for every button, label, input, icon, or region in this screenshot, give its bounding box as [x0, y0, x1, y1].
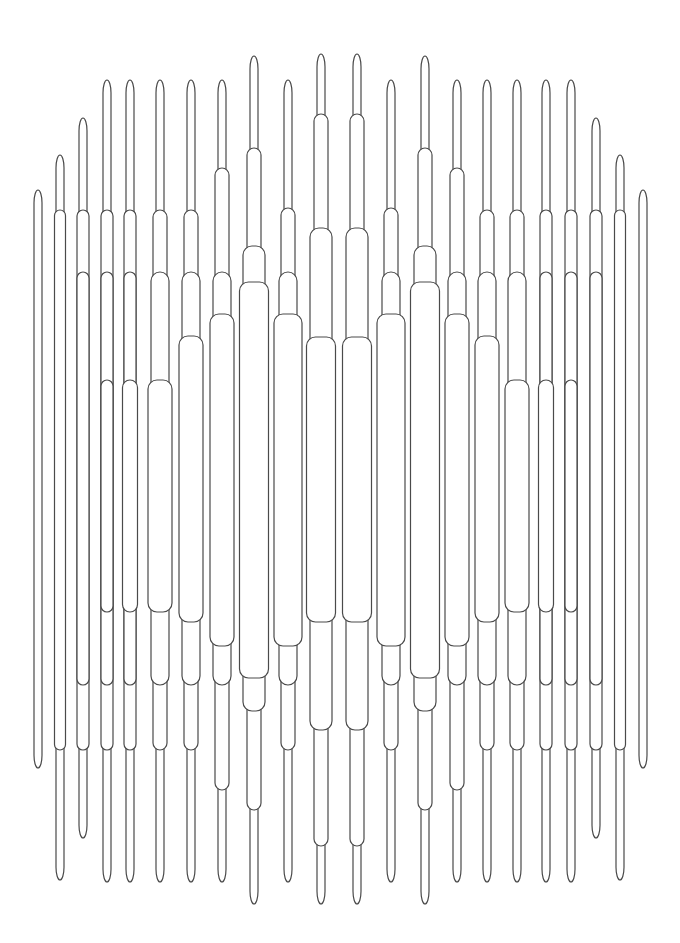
- capsule-segment: [77, 272, 89, 685]
- capsule-segment: [307, 337, 336, 622]
- column-10: [307, 54, 336, 904]
- column-6: [179, 80, 203, 882]
- capsule-columns: [34, 54, 647, 904]
- capsule-segment: [34, 190, 42, 768]
- capsule-segment: [590, 272, 602, 685]
- column-13: [411, 56, 440, 904]
- capsule-segment: [123, 380, 138, 612]
- capsule-segment: [505, 380, 529, 612]
- column-12: [377, 80, 405, 882]
- column-17: [539, 80, 554, 882]
- capsule-segment: [343, 337, 372, 622]
- column-0: [34, 190, 42, 768]
- capsule-segment: [101, 380, 113, 612]
- capsule-segment: [274, 314, 302, 646]
- column-14: [445, 80, 469, 882]
- capsule-segment: [411, 282, 440, 678]
- capsule-segment: [539, 380, 554, 612]
- capsule-segment: [148, 380, 172, 612]
- capsule-segment: [179, 336, 203, 622]
- column-5: [148, 80, 172, 882]
- column-18: [565, 80, 577, 882]
- column-19: [590, 118, 602, 838]
- column-2: [77, 118, 89, 838]
- column-3: [101, 80, 113, 882]
- line-art-canvas: [0, 0, 680, 943]
- capsule-segment: [55, 210, 66, 750]
- column-16: [505, 80, 529, 882]
- capsule-segment: [210, 314, 234, 646]
- capsule-segment: [240, 282, 269, 678]
- capsule-segment: [475, 336, 499, 622]
- capsule-segment: [615, 210, 626, 750]
- capsule-segment: [639, 190, 647, 768]
- column-21: [639, 190, 647, 768]
- column-4: [123, 80, 138, 882]
- column-20: [615, 155, 626, 880]
- capsule-segment: [445, 314, 469, 646]
- capsule-segment: [565, 380, 577, 612]
- column-11: [343, 54, 372, 904]
- column-15: [475, 80, 499, 882]
- capsule-segment: [377, 314, 405, 646]
- column-1: [55, 155, 66, 880]
- column-8: [240, 56, 269, 904]
- column-9: [274, 80, 302, 882]
- column-7: [210, 80, 234, 882]
